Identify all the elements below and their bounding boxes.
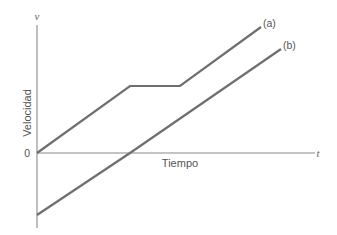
velocity-time-diagram: v t 0 Velocidad Tiempo (a) (b) — [0, 0, 337, 235]
y-axis-title: Velocidad — [21, 89, 33, 137]
curve-a — [37, 27, 261, 153]
x-axis-title: Tiempo — [162, 157, 198, 169]
curve-a-label: (a) — [263, 17, 276, 29]
curve-b-label: (b) — [283, 39, 296, 51]
x-axis-symbol: t — [316, 147, 320, 159]
curve-b — [37, 49, 281, 215]
origin-label: 0 — [24, 147, 30, 159]
y-axis-symbol: v — [35, 10, 40, 22]
